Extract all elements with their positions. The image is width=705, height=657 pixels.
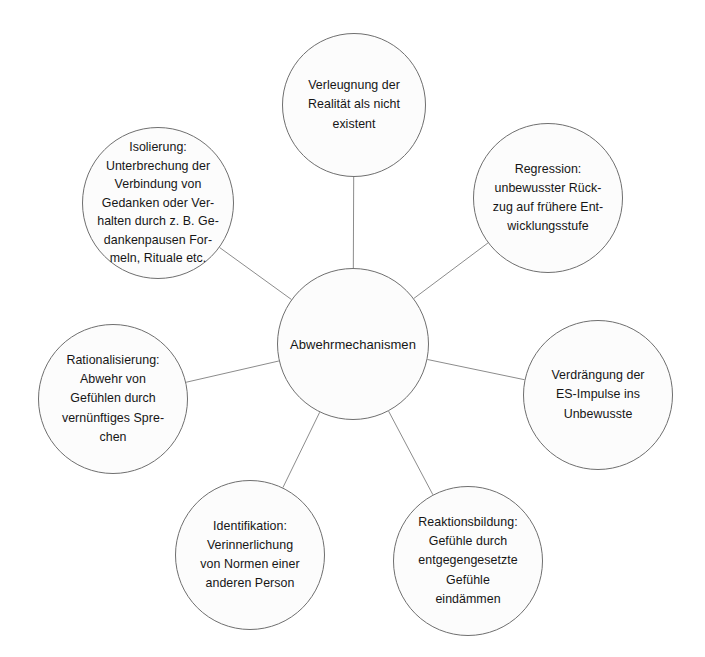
- node-label-reaktionsbildung: Reaktionsbildung: Gefühle durch entgegen…: [412, 513, 523, 609]
- node-reaktionsbildung[interactable]: Reaktionsbildung: Gefühle durch entgegen…: [393, 486, 543, 636]
- node-identifikation[interactable]: Identifikation: Verinnerlichung von Norm…: [175, 480, 325, 630]
- connector-line-reaktionsbildung: [389, 411, 433, 495]
- node-label-verleugnung: Verleugnung der Realität als nicht exist…: [302, 76, 406, 134]
- node-label-isolierung: Isolierung: Unterbrechung der Verbindung…: [91, 138, 225, 268]
- connector-line-verdraengung: [427, 359, 524, 379]
- node-verleugnung[interactable]: Verleugnung der Realität als nicht exist…: [282, 33, 426, 177]
- node-label-regression: Regression: unbewusster Rück- zug auf fr…: [487, 160, 610, 237]
- connector-line-identifikation: [283, 412, 320, 487]
- defense-mechanisms-diagram: Abwehrmechanismen Verleugnung der Realit…: [0, 0, 705, 657]
- node-label-abwehrmechanismen: Abwehrmechanismen: [284, 336, 422, 353]
- node-regression[interactable]: Regression: unbewusster Rück- zug auf fr…: [473, 123, 623, 273]
- connector-line-regression: [414, 243, 488, 299]
- node-verdraengung[interactable]: Verdrängung der ES-Impulse ins Unbewusst…: [523, 320, 673, 470]
- connector-line-rationalisierung: [186, 361, 279, 382]
- node-rationalisierung[interactable]: Rationalisierung: Abwehr von Gefühlen du…: [38, 324, 188, 474]
- node-isolierung[interactable]: Isolierung: Unterbrechung der Verbindung…: [82, 127, 234, 279]
- connector-line-isolierung: [220, 248, 292, 300]
- node-label-rationalisierung: Rationalisierung: Abwehr von Gefühlen du…: [56, 351, 170, 447]
- node-label-verdraengung: Verdrängung der ES-Impulse ins Unbewusst…: [545, 366, 650, 424]
- node-abwehrmechanismen[interactable]: Abwehrmechanismen: [277, 268, 429, 420]
- node-label-identifikation: Identifikation: Verinnerlichung von Norm…: [194, 517, 305, 594]
